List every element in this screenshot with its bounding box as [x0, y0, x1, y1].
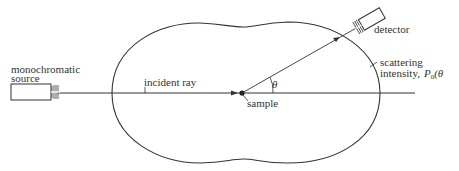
incident-arrow-icon	[231, 91, 238, 96]
source-label-line2: source	[11, 72, 40, 84]
scattered-ray-line	[242, 27, 358, 93]
source-device	[11, 84, 60, 100]
detector-label: detector	[374, 23, 410, 35]
intensity-label-line2: intensity,P0(θ	[380, 67, 444, 81]
sample-label: sample	[247, 97, 278, 109]
incident-ray-label: incident ray	[144, 76, 197, 88]
theta-label: θ	[272, 78, 278, 90]
scattered-arrow-icon	[333, 37, 340, 42]
scattering-diagram: monochromatic source incident ray sample…	[0, 0, 459, 171]
